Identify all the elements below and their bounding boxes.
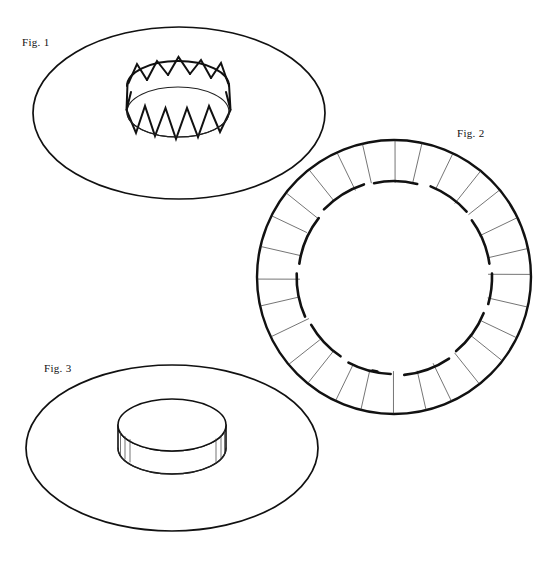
fig1-label: Fig. 1 [22, 36, 49, 48]
figure-1-group: Fig. 1 [22, 27, 325, 199]
patent-figure-sheet: Fig. 3 [0, 0, 557, 562]
fig2-inner-arc [372, 370, 377, 371]
figure-drawing-canvas: Fig. 3 [0, 0, 557, 562]
figure-3-group: Fig. 3 [26, 362, 318, 531]
fig1-disc-outline [33, 27, 325, 199]
figure-2-group: Fig. 2 [257, 127, 531, 414]
fig3-hub-top-face [118, 399, 226, 451]
fig2-label: Fig. 2 [457, 127, 484, 139]
fig3-label: Fig. 3 [44, 362, 72, 374]
